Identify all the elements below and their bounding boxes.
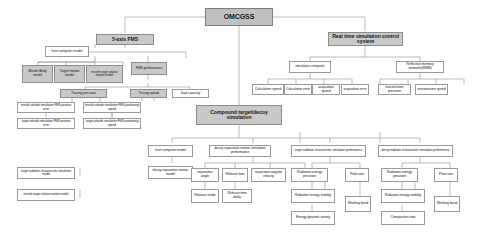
node-compaction-ratio-label: Compaction ratio: [391, 216, 416, 220]
node-decoy-radiation-characteristic[interactable]: decoy radiation characteristic simulatio…: [378, 145, 453, 157]
node-release-time[interactable]: Release time: [222, 168, 248, 182]
node-energy-dynamic-variety[interactable]: Energy dynamic variety: [291, 211, 335, 225]
node-missile-attitude-position-error[interactable]: missile attitude simulation FMS position…: [17, 102, 75, 113]
node-working-band-left-label: Working band: [348, 202, 368, 206]
node-point-size-right[interactable]: Point size: [434, 168, 458, 182]
node-radiation-energy-stability-left[interactable]: Radiation energy stability: [291, 189, 335, 203]
node-load-capacity-label: load capacity: [181, 92, 200, 96]
diagram-canvas: OMCGSS 5-axis FMS host computer model Mi…: [0, 0, 478, 248]
node-missile-body-model[interactable]: Missile Body model: [22, 65, 53, 83]
node-missile-target-relative-motion-model-bottom-label: missile target relative motion model: [24, 193, 69, 196]
node-working-band-right-label: Working band: [437, 202, 457, 206]
node-target-radiation-characteristic[interactable]: target radiation characteristic simulati…: [291, 145, 366, 157]
node-simulation-computer-label: simulation computer: [295, 65, 324, 69]
node-host-computer-model-bottom-label: host computer model: [155, 149, 186, 153]
node-target-attitude-position-error[interactable]: target attitude simulation FMS position …: [17, 118, 75, 129]
node-release-time-delay[interactable]: Release time delay: [222, 189, 252, 203]
node-point-size-left[interactable]: Point size: [345, 168, 369, 182]
node-acquisition-speed-label: acquisition speed: [314, 86, 338, 93]
node-5-axis-fms-label: 5-axis FMS: [112, 37, 138, 42]
node-release-mode-label: Release mode: [194, 194, 215, 198]
node-decoy-radiation-characteristic-label: decoy radiation characteristic simulatio…: [382, 149, 450, 152]
node-separation-angular-velocity[interactable]: separation angular velocity: [251, 168, 286, 182]
node-target-motion-model-label: Target motion model: [56, 70, 83, 77]
node-tracing-precision-label: Tracing precision: [71, 92, 96, 96]
node-target-radiation-characteristic-model[interactable]: target radiation characteristic simulati…: [17, 167, 75, 179]
node-host-computer-model-left-label: host computer model: [52, 50, 83, 54]
node-acquisition-error-label: acquisition error: [343, 88, 366, 92]
node-radiation-energy-precision-right-label: Radiation energy precision: [383, 171, 416, 178]
node-radiation-energy-stability-right-label: Radiation energy stability: [385, 194, 422, 198]
node-target-motion-model[interactable]: Target motion model: [54, 65, 85, 83]
node-tracing-speed[interactable]: Tracing speed: [130, 89, 167, 98]
node-real-time-simulation-control-system[interactable]: Real time simulation control system: [328, 32, 403, 46]
node-missile-target-relative-motion-model-label: missile target relative motion model: [88, 71, 121, 77]
node-missile-attitude-positioning-speed[interactable]: missile attitude simulation FMS position…: [83, 102, 141, 113]
node-fms-performance[interactable]: FMS performance: [131, 62, 167, 75]
node-point-size-right-label: Point size: [439, 173, 453, 177]
node-target-radiation-characteristic-model-label: target radiation characteristic simulati…: [19, 170, 73, 176]
node-decoy-separation-motion-model-label: decoy separation motion model: [150, 169, 191, 176]
node-host-computer-model-left[interactable]: host computer model: [45, 46, 89, 57]
node-energy-dynamic-variety-label: Energy dynamic variety: [296, 216, 330, 220]
node-separation-angle-label: separation angle: [193, 171, 217, 178]
node-decoy-separation-motion-sim-performance-label: decoy separation motion simulation perfo…: [211, 147, 269, 154]
node-calculation-speed[interactable]: Calculation speed: [252, 84, 284, 95]
node-point-size-left-label: Point size: [350, 173, 364, 177]
node-missile-body-model-label: Missile Body model: [24, 70, 51, 77]
node-transmission-speed[interactable]: transmission speed: [415, 84, 448, 95]
node-tracing-speed-label: Tracing speed: [138, 92, 159, 96]
node-missile-target-relative-motion-model[interactable]: missile target relative motion model: [86, 65, 123, 83]
node-compaction-ratio[interactable]: Compaction ratio: [381, 211, 425, 225]
node-reflective-memory-network-label: Reflective memory networks(RMN): [398, 63, 442, 70]
node-compound-target-decoy-simulation-label: Compound target/decoy simulation: [198, 110, 280, 121]
node-radiation-energy-stability-left-label: Radiation energy stability: [295, 194, 332, 198]
node-decoy-separation-motion-model[interactable]: decoy separation motion model: [148, 166, 193, 179]
node-host-computer-model-bottom[interactable]: host computer model: [148, 145, 193, 157]
node-target-attitude-positioning-speed-label: target attitude simulation FMS positioni…: [85, 120, 139, 126]
node-separation-angle[interactable]: separation angle: [191, 168, 219, 182]
node-decoy-separation-motion-sim-performance[interactable]: decoy separation motion simulation perfo…: [209, 145, 271, 157]
node-acquisition-speed[interactable]: acquisition speed: [312, 84, 340, 95]
node-release-time-delay-label: Release time delay: [224, 192, 250, 199]
node-separation-angular-velocity-label: separation angular velocity: [253, 171, 284, 178]
node-radiation-energy-precision-left-label: Radiation energy precision: [293, 171, 326, 178]
node-missile-attitude-position-error-label: missile attitude simulation FMS position…: [19, 104, 73, 110]
node-missile-attitude-positioning-speed-label: missile attitude simulation FMS position…: [85, 104, 139, 110]
node-tracing-precision[interactable]: Tracing precision: [60, 89, 107, 98]
node-omcgss[interactable]: OMCGSS: [205, 8, 273, 26]
node-transmission-speed-label: transmission speed: [417, 88, 445, 92]
node-calculation-error[interactable]: Calculation error: [284, 84, 312, 95]
node-5-axis-fms[interactable]: 5-axis FMS: [96, 34, 154, 45]
node-working-band-left[interactable]: Working band: [345, 196, 371, 212]
node-release-mode[interactable]: Release mode: [191, 189, 219, 203]
node-transmission-precision-label: transmission precision: [380, 86, 409, 93]
node-compound-target-decoy-simulation[interactable]: Compound target/decoy simulation: [196, 105, 282, 125]
node-missile-target-relative-motion-model-bottom[interactable]: missile target relative motion model: [17, 189, 75, 201]
node-working-band-right[interactable]: Working band: [434, 196, 460, 212]
node-load-capacity[interactable]: load capacity: [172, 89, 209, 98]
node-simulation-computer[interactable]: simulation computer: [289, 61, 331, 73]
node-radiation-energy-precision-right[interactable]: Radiation energy precision: [381, 168, 418, 182]
node-radiation-energy-stability-right[interactable]: Radiation energy stability: [381, 189, 425, 203]
node-release-time-label: Release time: [225, 173, 244, 177]
node-acquisition-error[interactable]: acquisition error: [341, 84, 369, 95]
node-omcgss-label: OMCGSS: [224, 13, 255, 20]
node-calculation-error-label: Calculation error: [286, 88, 310, 92]
node-radiation-energy-precision-left[interactable]: Radiation energy precision: [291, 168, 328, 182]
node-target-attitude-positioning-speed[interactable]: target attitude simulation FMS positioni…: [83, 118, 141, 129]
node-reflective-memory-network[interactable]: Reflective memory networks(RMN): [396, 61, 444, 73]
node-calculation-speed-label: Calculation speed: [255, 88, 281, 92]
node-real-time-simulation-control-system-label: Real time simulation control system: [330, 34, 401, 45]
node-target-radiation-characteristic-label: target radiation characteristic simulati…: [295, 149, 362, 152]
node-fms-performance-label: FMS performance: [136, 67, 163, 71]
node-transmission-precision[interactable]: transmission precision: [378, 84, 411, 95]
node-target-attitude-position-error-label: target attitude simulation FMS position …: [19, 120, 73, 126]
